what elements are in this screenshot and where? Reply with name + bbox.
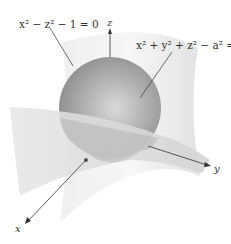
- diagram-canvas: x² − z² − 1 = 0 x² + y² + z² − a² = 0 z …: [0, 0, 231, 244]
- x-axis-arrowhead: [25, 217, 31, 224]
- sphere-equation-label: x² + y² + z² − a² = 0: [136, 39, 231, 51]
- x-axis-label: x: [15, 223, 21, 234]
- cylinder-equation-label: x² − z² − 1 = 0: [19, 18, 99, 30]
- y-axis-label: y: [213, 163, 220, 174]
- z-axis-label: z: [106, 17, 113, 28]
- z-axis-arrowhead: [108, 28, 112, 34]
